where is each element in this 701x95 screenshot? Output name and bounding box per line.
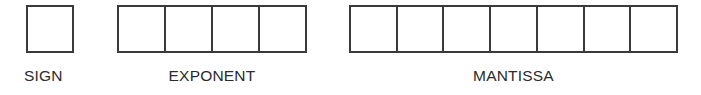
sign-field-label: SIGN xyxy=(24,65,63,87)
exponent-bit-cell[interactable] xyxy=(166,7,213,51)
sign-bit-cell[interactable] xyxy=(28,7,72,51)
mantissa-field-label: MANTISSA xyxy=(349,65,678,87)
bit-field-diagram: SIGN EXPONENT MANTISSA xyxy=(0,0,701,95)
exponent-field-label: EXPONENT xyxy=(117,65,307,87)
mantissa-field-group xyxy=(349,5,678,53)
mantissa-bit-cell[interactable] xyxy=(398,7,445,51)
mantissa-bit-cell[interactable] xyxy=(351,7,398,51)
mantissa-bit-cell[interactable] xyxy=(585,7,632,51)
sign-field-group xyxy=(26,5,74,53)
exponent-field-group xyxy=(117,5,307,53)
exponent-bit-cell[interactable] xyxy=(119,7,166,51)
mantissa-bit-cell[interactable] xyxy=(444,7,491,51)
mantissa-bit-cell[interactable] xyxy=(491,7,538,51)
exponent-bit-cell[interactable] xyxy=(260,7,305,51)
exponent-bit-cell[interactable] xyxy=(213,7,260,51)
mantissa-bit-cell[interactable] xyxy=(631,7,676,51)
mantissa-bit-cell[interactable] xyxy=(538,7,585,51)
